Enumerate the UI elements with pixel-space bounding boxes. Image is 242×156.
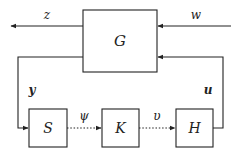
block-g-label: G [114, 32, 126, 50]
block-k-label: K [114, 120, 127, 136]
signal-u-label: u [204, 83, 213, 97]
signal-z-label: z [43, 8, 51, 22]
signal-psi-label: ψ [79, 109, 89, 123]
block-s: S [29, 109, 67, 147]
block-g: G [83, 10, 157, 72]
block-k: K [102, 109, 139, 147]
signal-upsilon-label: υ [153, 109, 160, 123]
block-diagram: G z w y u S ψ K υ H [0, 0, 242, 156]
block-h: H [176, 109, 213, 147]
signal-w-label: w [191, 8, 202, 22]
block-h-label: H [187, 120, 201, 136]
block-s-label: S [43, 120, 53, 136]
signal-y-label: y [28, 83, 37, 97]
